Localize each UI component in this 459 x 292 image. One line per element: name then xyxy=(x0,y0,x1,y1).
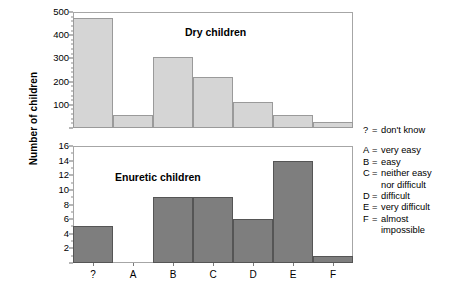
legend-value: don't know xyxy=(381,125,459,136)
legend-key: B xyxy=(363,157,372,168)
bar-A xyxy=(113,115,153,128)
y-minor-tickmark xyxy=(71,167,74,168)
y-tickmark xyxy=(69,233,73,234)
y-tickmark xyxy=(69,175,73,176)
x-tick-label-question: ? xyxy=(90,269,96,280)
x-tick-label-D: D xyxy=(249,269,256,280)
x-tickmark xyxy=(173,263,174,266)
y-tick-label: 14 xyxy=(39,156,69,166)
legend-item-F: F=almost xyxy=(363,214,459,225)
figure: Number of children Dry children 10020030… xyxy=(0,0,459,292)
y-tickmark xyxy=(69,12,73,13)
y-minor-tickmark xyxy=(71,21,74,22)
legend-value-continued: impossible xyxy=(363,225,459,236)
chart-enuretic-children: Enuretic children 246810121416 xyxy=(73,146,353,263)
legend-value: very difficult xyxy=(381,202,459,213)
y-minor-tickmark xyxy=(71,53,74,54)
y-tickmark xyxy=(69,248,73,249)
x-tick-label-F: F xyxy=(330,269,336,280)
bar-C xyxy=(193,197,233,263)
plot-area-bottom xyxy=(73,146,353,263)
chart-dry-children: Dry children 100200300400500 xyxy=(73,12,353,128)
x-axis: ?ABCDEF xyxy=(73,263,353,285)
x-tick-label-B: B xyxy=(170,269,177,280)
y-tickmark xyxy=(69,81,73,82)
legend-value: easy xyxy=(381,157,459,168)
bar-E xyxy=(273,161,313,263)
x-tick-label-A: A xyxy=(130,269,137,280)
y-minor-tickmark xyxy=(71,90,74,91)
y-tickmark xyxy=(69,58,73,59)
y-tickmark xyxy=(69,189,73,190)
legend-equals: = xyxy=(372,202,381,213)
y-tick-label: 12 xyxy=(39,171,69,181)
y-minor-tickmark xyxy=(71,76,74,77)
legend-item-list: A=very easyB=easyC=neither easynor diffi… xyxy=(363,145,459,236)
x-tickmark xyxy=(133,263,134,266)
y-minor-tickmark xyxy=(71,255,74,256)
y-minor-tickmark xyxy=(71,72,74,73)
legend-item-E: E=very difficult xyxy=(363,202,459,213)
y-minor-tickmark xyxy=(71,100,74,101)
x-tickmark xyxy=(93,263,94,266)
y-minor-tickmark xyxy=(71,226,74,227)
legend-key: ? xyxy=(363,125,372,136)
y-tick-label: 16 xyxy=(39,141,69,151)
legend-key: C xyxy=(363,168,372,179)
y-minor-tickmark xyxy=(71,44,74,45)
chart-title-enuretic: Enuretic children xyxy=(115,171,201,183)
legend-value: almost xyxy=(381,214,459,225)
y-minor-tickmark xyxy=(71,16,74,17)
legend-key: A xyxy=(363,145,372,156)
bar-E xyxy=(273,115,313,128)
legend-item-D: D=difficult xyxy=(363,191,459,202)
bar-F xyxy=(313,256,353,263)
y-minor-tickmark xyxy=(71,25,74,26)
y-tickmark xyxy=(69,104,73,105)
y-tick-label: 100 xyxy=(39,100,69,110)
legend-item-B: B=easy xyxy=(363,157,459,168)
y-minor-tickmark xyxy=(71,67,74,68)
y-minor-tickmark xyxy=(71,30,74,31)
legend-item-question: ? = don't know xyxy=(363,125,459,136)
bar-question xyxy=(73,18,113,128)
y-axis-title: Number of children xyxy=(28,34,39,204)
legend-key: F xyxy=(363,214,372,225)
y-minor-tickmark xyxy=(71,95,74,96)
y-tick-label: 6 xyxy=(39,214,69,224)
legend-spacer xyxy=(363,136,459,145)
legend-equals: = xyxy=(372,191,381,202)
y-minor-tickmark xyxy=(71,114,74,115)
x-tick-label-C: C xyxy=(209,269,216,280)
bar-D xyxy=(233,102,273,128)
y-tickmark xyxy=(69,204,73,205)
y-minor-tickmark xyxy=(71,49,74,50)
y-minor-tickmark xyxy=(71,63,74,64)
y-tick-label: 500 xyxy=(39,7,69,17)
x-tickmark xyxy=(293,263,294,266)
bar-B xyxy=(153,197,193,263)
y-minor-tickmark xyxy=(71,182,74,183)
y-minor-tickmark xyxy=(71,211,74,212)
x-tickmark xyxy=(333,263,334,266)
legend: ? = don't know A=very easyB=easyC=neithe… xyxy=(363,125,459,237)
y-minor-tickmark xyxy=(71,241,74,242)
legend-value: difficult xyxy=(381,191,459,202)
y-tick-label: 200 xyxy=(39,77,69,87)
y-tickmark xyxy=(69,219,73,220)
y-tick-label: 4 xyxy=(39,229,69,239)
y-tick-label: 400 xyxy=(39,30,69,40)
y-minor-tickmark xyxy=(71,86,74,87)
y-tickmark xyxy=(69,160,73,161)
legend-item-C: C=neither easy xyxy=(363,168,459,179)
y-tick-label: 10 xyxy=(39,185,69,195)
legend-equals: = xyxy=(372,157,381,168)
y-minor-tickmark xyxy=(71,197,74,198)
legend-equals: = xyxy=(372,168,381,179)
y-minor-tickmark xyxy=(71,39,74,40)
bar-F xyxy=(313,122,353,128)
bar-B xyxy=(153,57,193,128)
bar-C xyxy=(193,77,233,128)
chart-title-dry: Dry children xyxy=(185,26,246,38)
y-tick-label: 300 xyxy=(39,54,69,64)
